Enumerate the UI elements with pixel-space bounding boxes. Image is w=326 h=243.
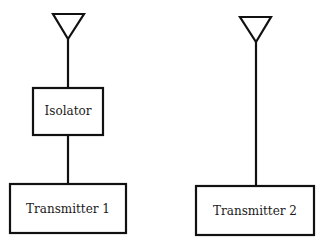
isolator-label: Isolator — [33, 104, 103, 118]
antenna-icon-1 — [53, 14, 84, 39]
transmitter-1-label: Transmitter 1 — [10, 202, 126, 216]
transmitter-2-label: Transmitter 2 — [196, 204, 314, 218]
antenna-icon-2 — [240, 17, 271, 42]
